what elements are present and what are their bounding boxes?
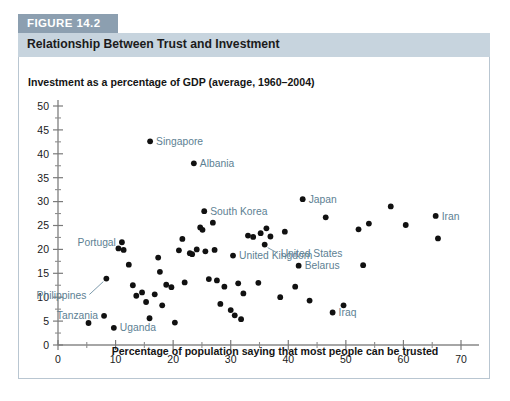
svg-text:25: 25 [37, 219, 49, 231]
chart-panel: Investment as a percentage of GDP (avera… [18, 57, 490, 379]
figure-container: FIGURE 14.2 Relationship Between Trust a… [0, 0, 510, 401]
svg-text:15: 15 [37, 267, 49, 279]
svg-text:40: 40 [37, 148, 49, 160]
point-label: Singapore [156, 136, 203, 147]
svg-text:20: 20 [37, 243, 49, 255]
x-axis-title: Percentage of population saying that mos… [19, 345, 491, 357]
svg-text:5: 5 [43, 315, 49, 327]
point-label: Iraq [339, 307, 357, 318]
figure-title: Relationship Between Trust and Investmen… [27, 37, 280, 51]
point-label: Uganda [120, 322, 156, 333]
scatter-plot: 05101520253035404550010203040506070 Sing… [19, 57, 491, 377]
point-label: Albania [200, 158, 235, 169]
svg-text:30: 30 [37, 195, 49, 207]
svg-text:45: 45 [37, 124, 49, 136]
point-label: Japan [309, 194, 337, 205]
point-label: Iran [442, 211, 460, 222]
figure-number-badge: FIGURE 14.2 [18, 14, 118, 33]
point-label: Tanzania [57, 310, 98, 321]
point-label: Belarus [305, 260, 340, 271]
svg-text:50: 50 [37, 100, 49, 112]
point-label: South Korea [210, 206, 268, 217]
point-label: United Kingdom [239, 250, 312, 261]
data-points [86, 138, 441, 330]
point-label: Philippines [37, 290, 87, 301]
point-label: Portugal [78, 237, 116, 248]
svg-text:35: 35 [37, 172, 49, 184]
figure-title-band: Relationship Between Trust and Investmen… [18, 33, 490, 57]
